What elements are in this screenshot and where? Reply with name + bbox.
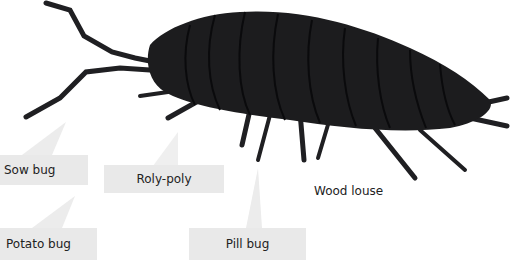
label-wood-louse: Wood louse (314, 184, 383, 198)
roly-poly-text: Roly-poly (136, 172, 191, 186)
label-potato-bug: Potato bug (0, 228, 97, 260)
label-sow-bug: Sow bug (0, 155, 88, 185)
sow-bug-text: Sow bug (4, 163, 55, 177)
label-pill-bug: Pill bug (189, 228, 306, 260)
isopod-illustration (0, 0, 517, 260)
pill-bug-pointer (246, 168, 262, 228)
potato-bug-text: Potato bug (6, 237, 71, 251)
label-roly-poly: Roly-poly (104, 165, 224, 193)
sow-bug-pointer (22, 122, 66, 155)
isopod-diagram: Sow bug Roly-poly Wood louse Potato bug … (0, 0, 517, 260)
pill-bug-text: Pill bug (226, 237, 270, 251)
potato-bug-pointer (32, 196, 75, 228)
